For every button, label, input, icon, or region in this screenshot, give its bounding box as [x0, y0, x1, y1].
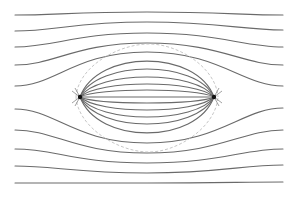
outer-field-line	[15, 182, 283, 183]
outer-field-line	[15, 12, 283, 15]
outer-field-line	[15, 22, 283, 31]
outer-field-line	[15, 33, 283, 47]
outer-field-line	[15, 165, 283, 173]
inner-field-line	[80, 90, 214, 97]
outer-field-line	[15, 43, 283, 65]
left-source-icon	[78, 95, 82, 99]
field-line-diagram	[0, 0, 299, 198]
inner-field-line	[80, 77, 214, 97]
inner-field-line	[80, 97, 214, 117]
outer-field-line	[15, 130, 283, 153]
inner-field-lines	[80, 61, 214, 133]
right-source-icon	[212, 95, 216, 99]
outer-field-line	[15, 149, 283, 163]
inner-field-line	[80, 97, 214, 103]
